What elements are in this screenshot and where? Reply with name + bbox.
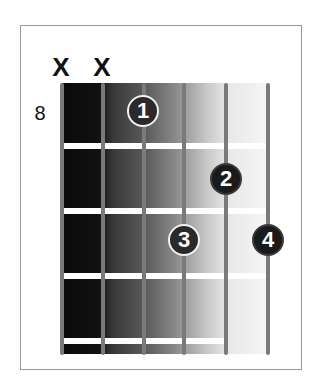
fretboard bbox=[62, 83, 269, 354]
fret-line-3 bbox=[64, 273, 266, 279]
finger-1-marker: 1 bbox=[127, 95, 159, 127]
fret-line-1 bbox=[64, 143, 266, 149]
string-2 bbox=[224, 83, 228, 355]
string-1 bbox=[266, 83, 270, 355]
fret-line-2 bbox=[64, 208, 266, 214]
starting-fret-label: 8 bbox=[34, 103, 45, 123]
finger-3-marker: 3 bbox=[168, 224, 200, 256]
mute-marker-string-5: X bbox=[93, 54, 110, 80]
string-6 bbox=[60, 83, 64, 355]
finger-4-marker: 4 bbox=[252, 224, 284, 256]
string-5 bbox=[101, 83, 105, 355]
string-3 bbox=[182, 83, 186, 355]
mute-marker-string-6: X bbox=[52, 54, 69, 80]
finger-2-marker: 2 bbox=[210, 163, 242, 195]
